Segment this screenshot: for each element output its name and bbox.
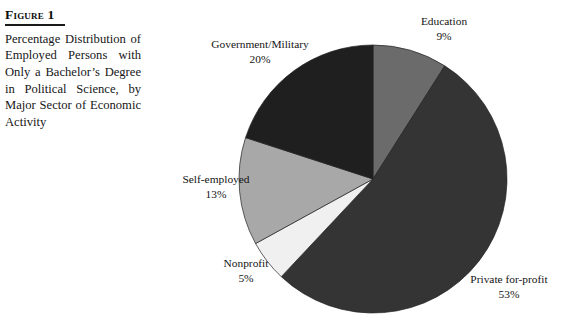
slice-label-education-name: Education (389, 14, 499, 29)
slice-label-private-for-profit-name: Private for-profit (440, 272, 578, 287)
figure-caption-text: Percentage Distribution of Employed Pers… (5, 31, 141, 131)
slice-label-nonprofit-percent: 5% (198, 271, 294, 286)
slice-label-self-employed-name: Self-employed (158, 172, 274, 187)
slice-label-government-military-percent: 20% (190, 52, 330, 67)
slice-label-government-military-name: Government/Military (190, 37, 330, 52)
slice-label-private-for-profit-percent: 53% (440, 287, 578, 302)
figure-rule-divider (5, 24, 65, 26)
slice-label-education: Education 9% (389, 14, 499, 43)
slice-label-government-military: Government/Military 20% (190, 37, 330, 66)
slice-label-nonprofit-name: Nonprofit (198, 256, 294, 271)
slice-label-self-employed-percent: 13% (158, 187, 274, 202)
slice-label-nonprofit: Nonprofit 5% (198, 256, 294, 285)
figure-number-label: Figure 1 (5, 8, 141, 22)
pie-chart: Education 9% Government/Military 20% Sel… (150, 0, 582, 325)
slice-label-education-percent: 9% (389, 29, 499, 44)
figure-caption-block: Figure 1 Percentage Distribution of Empl… (5, 8, 141, 130)
slice-label-self-employed: Self-employed 13% (158, 172, 274, 201)
slice-label-private-for-profit: Private for-profit 53% (440, 272, 578, 301)
